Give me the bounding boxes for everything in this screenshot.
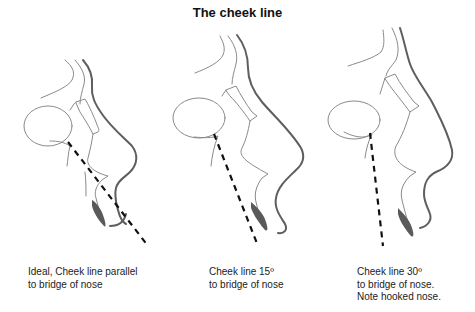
brow-line (348, 30, 384, 66)
panel-15-drawing (173, 35, 303, 246)
cheek-contour (395, 112, 416, 222)
lip-shape (398, 208, 413, 237)
cartilage-edge (380, 78, 385, 94)
nasolabial-line (85, 172, 86, 196)
nose-bridge-inner (228, 36, 237, 84)
panel-30-drawing (328, 28, 452, 246)
brow-line (195, 36, 224, 73)
lip-shape (251, 202, 267, 231)
lower-lid-line (194, 136, 218, 166)
nose-profile (83, 60, 136, 224)
caption-line: Cheek line 15º (209, 266, 284, 279)
nasal-cartilage (385, 74, 419, 112)
caption-line: to bridge of nose. (357, 279, 441, 292)
caption-line: Ideal, Cheek line parallel (28, 266, 138, 279)
caption-line: Cheek line 30º (357, 266, 441, 279)
lower-lid-line (50, 141, 70, 166)
nose-bridge-inner (386, 28, 398, 76)
cheek-line-dashed (214, 134, 258, 246)
eye-globe (173, 98, 225, 138)
caption-line: to bridge of nose (28, 279, 138, 292)
brow-line (41, 60, 74, 98)
nose-bridge-inner (75, 60, 85, 104)
lower-lid-line (344, 132, 372, 158)
lip-shape (92, 200, 106, 227)
caption-15-degrees: Cheek line 15º to bridge of nose (209, 266, 284, 291)
panel-ideal-drawing (24, 60, 148, 246)
cartilage-edge (222, 90, 226, 96)
cartilage-edge (70, 102, 76, 110)
nose-profile (400, 28, 452, 228)
caption-line: Note hooked nose. (357, 291, 441, 304)
caption-ideal: Ideal, Cheek line parallel to bridge of … (28, 266, 138, 291)
caption-30-degrees: Cheek line 30º to bridge of nose. Note h… (357, 266, 441, 304)
eye-globe (24, 106, 72, 146)
caption-line: to bridge of nose (209, 279, 284, 292)
nasal-cartilage (226, 86, 257, 121)
eye-globe (328, 101, 380, 139)
cheek-line-dashed (370, 133, 383, 246)
